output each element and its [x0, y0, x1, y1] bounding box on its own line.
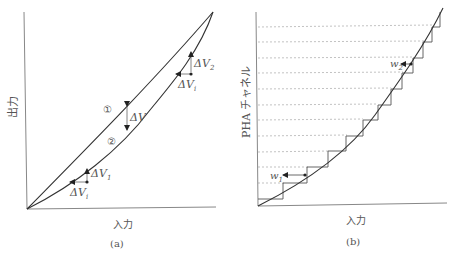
point-marker — [303, 173, 306, 176]
panel-a: ΔV ① ② ΔV1 ΔVi ΔV2 ΔVi 出力 入力 (a) — [6, 12, 216, 249]
curve-2 — [27, 12, 213, 209]
w1-label: w1 — [270, 170, 283, 184]
delta-vi-label-upper: ΔVi — [177, 78, 196, 93]
delta-v1-label: ΔV1 — [90, 167, 111, 182]
w2-label: w2 — [390, 58, 404, 72]
channel-gridlines — [258, 25, 433, 183]
x-axis-label: 入力 — [346, 214, 366, 226]
y-axis-label: 出力 — [6, 96, 20, 118]
delta-vi-label-lower: ΔVi — [69, 186, 88, 201]
y-axis — [24, 12, 27, 209]
curve-2-marker: ② — [107, 136, 116, 147]
point-marker — [85, 180, 88, 183]
x-axis — [27, 207, 216, 209]
response-curve — [258, 8, 443, 206]
diagram-canvas: ΔV ① ② ΔV1 ΔVi ΔV2 ΔVi 出力 入力 (a) — [0, 0, 451, 256]
curve-1-marker: ① — [103, 104, 112, 115]
delta-v-label: ΔV — [129, 111, 147, 124]
staircase — [258, 12, 440, 199]
y-axis-label: PHA チャネル — [240, 66, 253, 138]
y-axis — [256, 12, 258, 206]
delta-v2-label: ΔV2 — [193, 57, 215, 72]
x-axis-label: 入力 — [113, 218, 133, 230]
point-marker — [189, 72, 192, 75]
curve-1 — [27, 12, 213, 209]
x-axis — [258, 203, 447, 206]
panel-b: w1 w2 PHA チャネル 入力 (b) — [240, 8, 447, 247]
caption-b: (b) — [346, 236, 360, 247]
point-marker — [409, 62, 412, 65]
caption-a: (a) — [110, 238, 124, 249]
